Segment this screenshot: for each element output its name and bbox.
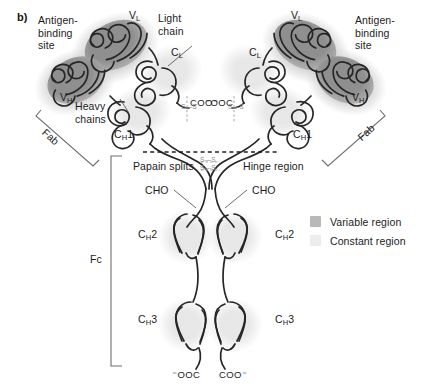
ch2-left-halo — [158, 210, 214, 264]
fab-bracket-right — [322, 110, 385, 166]
disulfide-label-hinge-2: S—S — [200, 165, 216, 172]
panel-letter: b) — [17, 11, 27, 23]
cl-right-label: CL — [249, 46, 261, 61]
vl-right-label: VL — [291, 9, 302, 24]
vh-left-label: VH — [60, 91, 73, 106]
legend-label-variable: Variable region — [330, 216, 401, 229]
heavy-cterm-right — [220, 348, 225, 369]
ch2-left-label: CH2 — [138, 228, 157, 243]
vh-right-label: VH — [352, 91, 365, 106]
antibody-diagram-artwork — [0, 0, 421, 387]
light-chain-label: Light chain — [158, 12, 206, 37]
cho-right-label: CHO — [252, 184, 276, 197]
hinge-region-label: Hinge region — [243, 160, 304, 173]
cho-left-label: CHO — [145, 184, 169, 197]
ch3-left-label: CH3 — [138, 313, 157, 328]
ch2-right-label: CH2 — [275, 228, 294, 243]
legend-swatch-constant — [310, 235, 321, 246]
ch3-right-label: CH3 — [275, 313, 294, 328]
antigen-binding-site-right-label: Antigen- binding site — [355, 14, 419, 52]
vl-left-label: VL — [129, 9, 140, 24]
ch2-ch3-link-right — [223, 257, 228, 302]
cl-left-label: CL — [171, 46, 183, 61]
antibody-structure-figure: b) Antigen- binding site Antigen- bindin… — [0, 0, 421, 387]
ch1-left-label: CH1 — [114, 128, 133, 143]
disulfide-label-light-right: S—S — [228, 104, 244, 111]
heavy-chains-label: Heavy chains — [75, 100, 121, 125]
heavy-cterm-left — [196, 348, 201, 369]
ch1-right-label: CH1 — [293, 128, 312, 143]
legend-label-constant: Constant region — [330, 235, 406, 248]
ch2-right-halo — [207, 210, 263, 264]
disulfide-label-light-left: S—S — [181, 104, 197, 111]
heavy-cterm-right-label: COO⁻ — [219, 369, 247, 380]
papain-splits-label: Papain splits — [133, 160, 194, 173]
disulfide-label-hinge-1: S—S — [200, 157, 216, 164]
heavy-cterm-left-label: ⁻OOC — [172, 369, 200, 380]
fc-label: Fc — [90, 253, 102, 266]
antigen-binding-site-left-label: Antigen- binding site — [38, 14, 100, 52]
fc-bracket — [111, 156, 122, 366]
ch2-ch3-link-left — [193, 257, 198, 302]
legend-swatch-variable — [310, 216, 321, 227]
